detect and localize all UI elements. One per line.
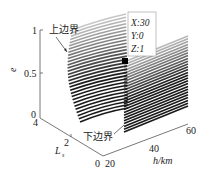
y-tick-label-4: 4 (33, 117, 38, 128)
datatip-y: Y:0 (131, 31, 144, 41)
z-tick-label-1: 1 (32, 25, 37, 36)
datatip-marker (122, 58, 128, 64)
chart-3d: 1 0.5 0 4 2 0 20 40 60 e L s h/km 上边界 下边… (0, 0, 210, 174)
x-tick-label-40: 40 (149, 143, 159, 154)
y-axis-label: L (54, 145, 61, 156)
x-axis-label: h/km (153, 155, 172, 166)
x-tick-label-20: 20 (105, 158, 115, 169)
x-tick-label-60: 60 (186, 125, 196, 136)
z-tick-label-05: 0.5 (24, 68, 37, 79)
z-axis-label: e (7, 67, 18, 72)
annotation-lower-arrow (114, 125, 124, 134)
datatip-z: Z:1 (131, 44, 144, 54)
annotation-upper-boundary: 上边界 (49, 24, 79, 35)
x-axis-label-text: h/km (153, 155, 172, 166)
datatip-x: X:30 (130, 18, 150, 28)
y-axis-label-sub: s (62, 152, 65, 158)
y-tick-label-2: 2 (64, 137, 69, 148)
y-tick-label-0: 0 (95, 158, 100, 169)
annotation-lower-boundary: 下边界 (83, 131, 113, 142)
x-axis-line (103, 124, 188, 156)
